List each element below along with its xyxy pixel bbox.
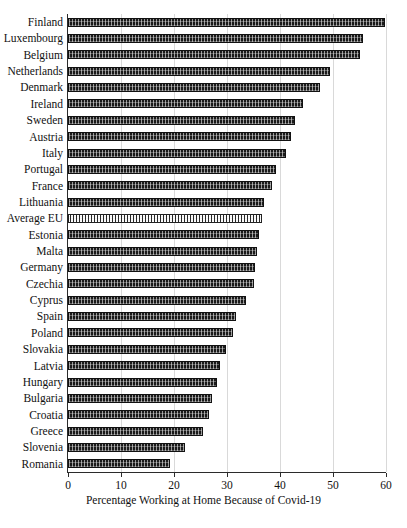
category-label-malta: Malta xyxy=(0,243,63,259)
plot-area xyxy=(68,14,386,472)
bar-latvia xyxy=(68,361,220,370)
bar-hungary xyxy=(68,378,217,387)
x-tick-20 xyxy=(174,473,175,477)
category-label-italy: Italy xyxy=(0,145,63,161)
category-label-sweden: Sweden xyxy=(0,112,63,128)
bar-row xyxy=(68,243,386,259)
bar-row xyxy=(68,210,386,226)
category-label-croatia: Croatia xyxy=(0,407,63,423)
bar-row xyxy=(68,308,386,324)
bar-chart: FinlandLuxembourgBelgiumNetherlandsDenma… xyxy=(0,0,407,528)
x-tick-label-40: 40 xyxy=(265,478,295,492)
bar-france xyxy=(68,181,272,190)
bar-row xyxy=(68,30,386,46)
bar-row xyxy=(68,292,386,308)
bar-row xyxy=(68,145,386,161)
bar-poland xyxy=(68,328,233,337)
bar-row xyxy=(68,129,386,145)
category-label-lithuania: Lithuania xyxy=(0,194,63,210)
x-tick-label-50: 50 xyxy=(318,478,348,492)
bar-row xyxy=(68,112,386,128)
x-tick-label-60: 60 xyxy=(371,478,401,492)
category-label-finland: Finland xyxy=(0,14,63,30)
category-label-cyprus: Cyprus xyxy=(0,292,63,308)
bar-row xyxy=(68,374,386,390)
bar-slovakia xyxy=(68,345,226,354)
bar-row xyxy=(68,259,386,275)
x-tick-30 xyxy=(227,473,228,477)
category-label-czechia: Czechia xyxy=(0,276,63,292)
category-label-hungary: Hungary xyxy=(0,374,63,390)
x-tick-40 xyxy=(280,473,281,477)
bar-croatia xyxy=(68,410,209,419)
bar-row xyxy=(68,423,386,439)
category-label-bulgaria: Bulgaria xyxy=(0,390,63,406)
bar-row xyxy=(68,79,386,95)
x-axis-title: Percentage Working at Home Because of Co… xyxy=(0,494,407,506)
bar-lithuania xyxy=(68,198,264,207)
bar-malta xyxy=(68,247,257,256)
category-label-estonia: Estonia xyxy=(0,227,63,243)
category-label-slovenia: Slovenia xyxy=(0,439,63,455)
bar-portugal xyxy=(68,165,276,174)
category-label-spain: Spain xyxy=(0,308,63,324)
category-label-portugal: Portugal xyxy=(0,161,63,177)
bar-denmark xyxy=(68,83,320,92)
category-label-average-eu: Average EU xyxy=(0,210,63,226)
x-tick-label-30: 30 xyxy=(212,478,242,492)
category-label-germany: Germany xyxy=(0,259,63,275)
bar-row xyxy=(68,439,386,455)
bar-luxembourg xyxy=(68,34,363,43)
category-label-netherlands: Netherlands xyxy=(0,63,63,79)
gridline-60 xyxy=(386,14,387,472)
x-tick-label-20: 20 xyxy=(159,478,189,492)
x-tick-60 xyxy=(386,473,387,477)
bar-spain xyxy=(68,312,236,321)
category-label-romania: Romania xyxy=(0,456,63,472)
bar-estonia xyxy=(68,230,259,239)
bar-row xyxy=(68,341,386,357)
bar-belgium xyxy=(68,50,360,59)
x-tick-label-0: 0 xyxy=(53,478,83,492)
category-label-greece: Greece xyxy=(0,423,63,439)
bar-greece xyxy=(68,427,203,436)
bar-average-eu xyxy=(68,214,262,223)
bar-slovenia xyxy=(68,443,185,452)
category-label-france: France xyxy=(0,178,63,194)
category-label-austria: Austria xyxy=(0,129,63,145)
bar-row xyxy=(68,390,386,406)
bar-italy xyxy=(68,149,286,158)
bar-row xyxy=(68,63,386,79)
bar-row xyxy=(68,47,386,63)
bar-row xyxy=(68,178,386,194)
category-label-luxembourg: Luxembourg xyxy=(0,30,63,46)
bar-germany xyxy=(68,263,255,272)
x-tick-10 xyxy=(121,473,122,477)
x-tick-label-10: 10 xyxy=(106,478,136,492)
x-tick-0 xyxy=(68,473,69,477)
bar-row xyxy=(68,358,386,374)
category-label-poland: Poland xyxy=(0,325,63,341)
bar-ireland xyxy=(68,99,303,108)
bar-row xyxy=(68,407,386,423)
bar-czechia xyxy=(68,279,254,288)
category-label-denmark: Denmark xyxy=(0,79,63,95)
bar-finland xyxy=(68,18,385,27)
bar-row xyxy=(68,194,386,210)
bar-sweden xyxy=(68,116,295,125)
bar-austria xyxy=(68,132,291,141)
category-label-ireland: Ireland xyxy=(0,96,63,112)
bar-row xyxy=(68,456,386,472)
bar-netherlands xyxy=(68,67,330,76)
bar-bulgaria xyxy=(68,394,212,403)
bar-cyprus xyxy=(68,296,246,305)
category-label-slovakia: Slovakia xyxy=(0,341,63,357)
category-label-belgium: Belgium xyxy=(0,47,63,63)
bar-row xyxy=(68,14,386,30)
bar-romania xyxy=(68,459,170,468)
bar-row xyxy=(68,276,386,292)
bar-row xyxy=(68,227,386,243)
category-label-latvia: Latvia xyxy=(0,358,63,374)
bar-row xyxy=(68,96,386,112)
x-tick-50 xyxy=(333,473,334,477)
